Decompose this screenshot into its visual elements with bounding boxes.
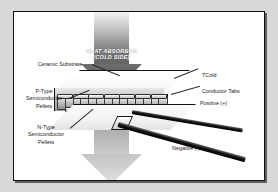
label-tcold: TCold [202,72,242,79]
conductor-tab [104,94,120,99]
label-conductor-tabs: Conductor Tabs [202,88,258,95]
conductor-tab [135,94,151,99]
conductor-tab [88,94,104,99]
figure-root: HEAT ABSORBED(COLD SIDE) HEAT REJECTED(H… [0,0,278,192]
label-n-type-pellets: N-Type Semiconductor Pellets [18,124,74,146]
figure-frame: HEAT ABSORBED(COLD SIDE) HEAT REJECTED(H… [13,11,265,181]
arrow-head [81,154,142,181]
label-negative: Negative (-) [172,145,224,152]
diagram-stage: HEAT ABSORBED(COLD SIDE) HEAT REJECTED(H… [14,12,264,180]
label-ceramic-substrate: Ceramic Substrate [27,61,93,68]
conductor-tab [151,94,167,99]
label-p-type-pellets: P-Type Semiconductor Pellets [16,88,72,110]
conductor-tab [119,94,135,99]
label-positive: Positive (+) [200,100,252,107]
